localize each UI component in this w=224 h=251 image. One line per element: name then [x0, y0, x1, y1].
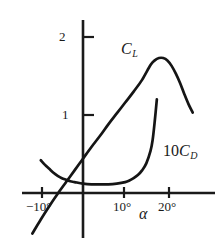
drag-coefficient-label: 10CD: [163, 143, 197, 159]
y-axis-tick-label-1: 1: [62, 108, 69, 121]
x-axis-tick-label-20: 20°: [158, 200, 176, 213]
lift-coefficient-label: CL: [121, 41, 137, 57]
drag-coefficient-label-main: C: [179, 142, 190, 159]
lift-coefficient-label-main: C: [121, 40, 132, 57]
y-axis-tick-label-2: 2: [59, 30, 66, 43]
x-axis-title-alpha: α: [139, 206, 147, 222]
drag-coefficient-curve: [41, 99, 157, 184]
lift-coefficient-label-sub: L: [132, 48, 138, 59]
drag-coefficient-label-sub: D: [190, 150, 197, 161]
aerodynamic-coefficient-chart: 2 1 −10° 10° 20° α CL 10CD: [0, 0, 224, 251]
x-axis-tick-label-neg10: −10°: [26, 200, 52, 213]
x-axis-tick-label-10: 10°: [113, 200, 131, 213]
drag-coefficient-label-prefix: 10: [163, 142, 179, 159]
